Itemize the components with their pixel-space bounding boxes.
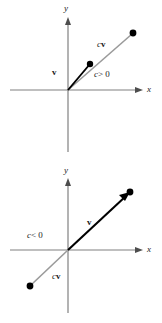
vector-scalar-multiplication-figure: y x v cv c> 0 (0, 0, 162, 323)
cv-label-v-positive: v (101, 39, 106, 49)
vector-label-v-negative: v (87, 218, 92, 227)
condition-label-c-positive: c> 0 (94, 70, 110, 79)
vector-v-positive (68, 61, 93, 90)
x-axis-label-negative: x (147, 245, 151, 254)
vector-label-cv-positive: cv (97, 40, 106, 49)
diagram-panel-c-negative: y x v cv c< 0 (0, 161, 162, 323)
condition-rest-negative: < 0 (31, 230, 43, 240)
endpoint-dot-cv-positive (130, 30, 137, 37)
endpoint-dot-cv-negative (27, 283, 34, 290)
y-axis-positive (65, 17, 71, 152)
vector-cv-negative (27, 250, 68, 289)
vector-label-cv-negative: cv (52, 272, 61, 281)
diagram-panel-c-positive: y x v cv c> 0 (0, 0, 162, 162)
x-axis-negative (10, 247, 143, 253)
x-axis-positive (10, 87, 143, 93)
x-axis-label-positive: x (147, 85, 151, 94)
y-axis-label-positive: y (64, 4, 68, 13)
cv-label-v-negative: v (56, 271, 61, 281)
vector-v-negative (68, 189, 133, 250)
condition-label-c-negative: c< 0 (27, 231, 43, 240)
endpoint-dot-v-negative (127, 189, 134, 196)
y-axis-label-negative: y (64, 166, 68, 175)
y-axis-negative (65, 178, 71, 313)
endpoint-dot-v-positive (87, 61, 93, 67)
vector-label-v-positive: v (52, 68, 57, 77)
condition-rest-positive: > 0 (98, 69, 110, 79)
